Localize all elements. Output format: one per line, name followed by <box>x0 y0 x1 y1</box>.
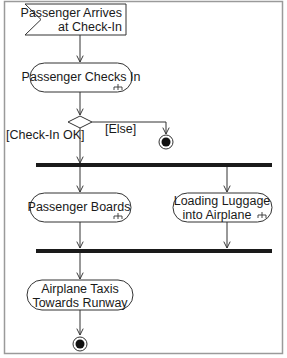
start-signal-label-line1: Passenger Arrives <box>21 6 122 20</box>
action-passenger-boards[interactable]: Passenger Boards <box>28 193 131 222</box>
action-label: Passenger Boards <box>28 200 131 214</box>
action-label-line2: Towards Runway <box>32 296 128 310</box>
action-label-line1: Loading Luggage <box>174 194 271 208</box>
final-node-else <box>159 135 173 149</box>
final-node <box>73 337 87 351</box>
action-label: Passenger Checks In <box>22 70 141 84</box>
join-bar <box>36 249 272 253</box>
action-airplane-taxis[interactable]: Airplane Taxis Towards Runway <box>27 280 133 310</box>
decision-node[interactable] <box>68 116 92 128</box>
action-loading-luggage[interactable]: Loading Luggage into Airplane <box>173 193 272 222</box>
start-signal-node[interactable]: Passenger Arrives at Check-In <box>21 4 126 35</box>
activity-diagram: Passenger Arrives at Check-In Passenger … <box>0 0 287 358</box>
guard-check-in-ok: [Check-In OK] <box>6 128 85 142</box>
action-label-line2: into Airplane <box>183 208 252 222</box>
start-signal-label-line2: at Check-In <box>58 20 122 34</box>
fork-bar <box>36 163 272 167</box>
action-label-line1: Airplane Taxis <box>41 282 119 296</box>
action-passenger-checks-in[interactable]: Passenger Checks In <box>22 63 141 92</box>
guard-else: [Else] <box>105 122 136 136</box>
